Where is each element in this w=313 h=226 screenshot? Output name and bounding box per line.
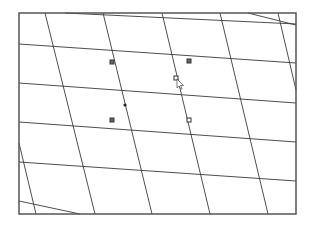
hollow-square-control-point[interactable]: [187, 118, 191, 122]
shallow-grid-line: [19, 201, 80, 214]
grid-canvas[interactable]: [0, 0, 313, 226]
grid-lines: [19, 13, 296, 214]
shallow-grid-line: [19, 122, 296, 142]
steep-grid-line: [103, 13, 152, 214]
square-control-point[interactable]: [110, 118, 114, 122]
shallow-grid-line: [19, 162, 296, 181]
shallow-grid-line: [19, 44, 296, 63]
square-control-point[interactable]: [110, 60, 114, 64]
shallow-grid-line: [19, 83, 296, 103]
canvas-frame: [19, 13, 296, 214]
steep-grid-line: [19, 143, 36, 214]
steep-grid-line: [162, 13, 210, 214]
steep-grid-line: [45, 13, 95, 214]
dot-control-point[interactable]: [123, 103, 126, 106]
mouse-cursor-icon: [177, 79, 184, 89]
shallow-grid-line: [65, 13, 296, 24]
square-control-point[interactable]: [187, 59, 191, 63]
steep-grid-line: [220, 13, 268, 214]
